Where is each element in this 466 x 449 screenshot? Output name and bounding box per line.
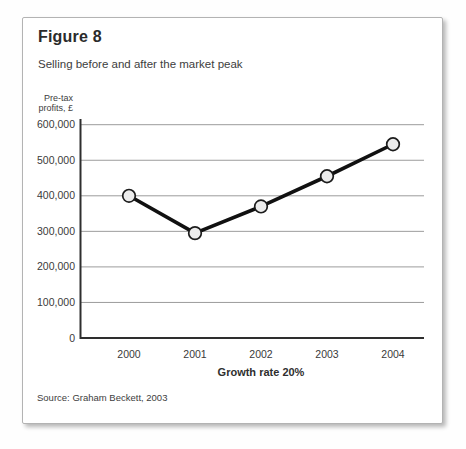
data-point-marker — [387, 138, 400, 151]
y-tick-label: 200,000 — [23, 260, 75, 273]
figure-card: Figure 8 Selling before and after the ma… — [22, 17, 443, 424]
y-tick-label: 300,000 — [23, 225, 75, 238]
y-tick-label: 500,000 — [23, 154, 75, 167]
x-tick-label: 2003 — [302, 348, 352, 360]
data-point-marker — [123, 190, 136, 203]
y-tick-label: 400,000 — [23, 189, 75, 202]
x-tick-label: 2002 — [236, 348, 286, 360]
x-tick-label: 2001 — [170, 348, 220, 360]
y-tick-label: 100,000 — [23, 296, 75, 309]
chart-area: Pre-tax profits, £ Growth rate 20% 0100,… — [23, 18, 442, 423]
x-tick-label: 2004 — [368, 348, 418, 360]
y-tick-label: 600,000 — [23, 118, 75, 131]
data-point-marker — [321, 170, 334, 183]
x-tick-label: 2000 — [104, 348, 154, 360]
y-tick-label: 0 — [23, 332, 75, 345]
data-point-marker — [189, 227, 202, 240]
series-line — [129, 144, 393, 233]
data-point-marker — [255, 200, 268, 213]
line-chart-svg — [23, 18, 442, 423]
source-note: Source: Graham Beckett, 2003 — [37, 392, 167, 403]
